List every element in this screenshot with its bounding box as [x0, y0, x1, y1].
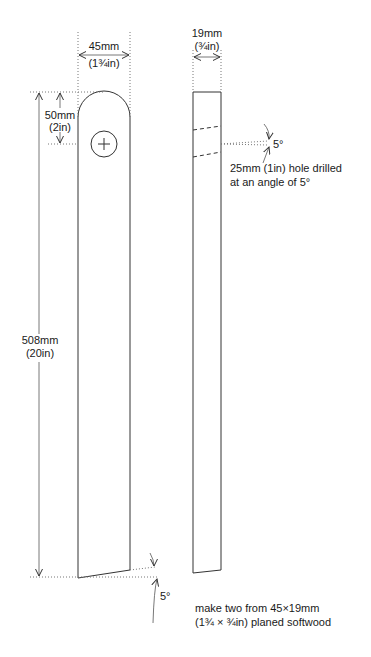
width-dimension: 45mm (1¾in)	[78, 32, 130, 117]
bottom-angle-label: 5°	[160, 590, 171, 602]
width-label-metric: 45mm	[89, 40, 120, 52]
front-piece-outline	[78, 91, 130, 578]
thickness-label-imperial: (¾in)	[194, 40, 219, 52]
length-label-metric: 508mm	[22, 334, 59, 346]
hole-bore-upper	[193, 126, 221, 130]
top-dimension: 50mm (2in)	[30, 92, 104, 144]
material-note-line-1: make two from 45×19mm	[195, 602, 319, 614]
hole-angle-label: 5°	[273, 138, 284, 150]
technical-drawing: 45mm (1¾in) 50mm (2in) 508mm (20in) 5° 1…	[0, 0, 371, 657]
front-view-piece	[78, 91, 130, 578]
hole-note-line-1: 25mm (1in) hole drilled	[230, 162, 342, 174]
material-note-line-2: (1¾ × ¾in) planed softwood	[195, 616, 331, 628]
bottom-angle-annotation: 5°	[130, 553, 171, 623]
thickness-dimension: 19mm (¾in)	[192, 27, 223, 92]
side-piece-outline	[193, 92, 221, 573]
width-label-imperial: (1¾in)	[88, 57, 119, 69]
material-note: make two from 45×19mm (1¾ × ¾in) planed …	[195, 602, 331, 628]
length-label-imperial: (20in)	[26, 347, 54, 359]
side-view-piece	[193, 92, 221, 573]
top-label-imperial: (2in)	[49, 121, 71, 133]
top-label-metric: 50mm	[45, 109, 76, 121]
hole-note-line-2: at an angle of 5°	[230, 176, 310, 188]
thickness-label-metric: 19mm	[192, 27, 223, 39]
length-dimension: 508mm (20in)	[22, 93, 158, 577]
hole-angle-annotation: 5° 25mm (1in) hole drilled at an angle o…	[221, 124, 342, 188]
hole-bore-lower	[193, 152, 221, 157]
